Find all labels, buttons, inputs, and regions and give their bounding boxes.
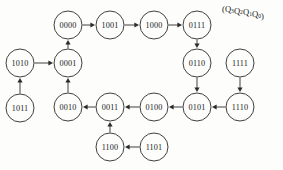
edge-0100-to-0011 xyxy=(125,104,140,109)
state-node-label: 0011 xyxy=(102,103,119,112)
state-variable-legend: (Q3Q2Q1Q0) xyxy=(222,4,264,21)
state-node-0001[interactable]: 0001 xyxy=(54,49,82,77)
state-node-label: 0101 xyxy=(189,103,206,112)
arrowhead-icon xyxy=(194,43,199,48)
state-node-label: 0010 xyxy=(60,103,77,112)
arrowhead-icon xyxy=(134,22,139,27)
state-node-1110[interactable]: 1110 xyxy=(226,93,254,121)
state-node-label: 1010 xyxy=(12,59,29,68)
edge-1111-to-1110 xyxy=(237,78,242,93)
edges-layer xyxy=(17,22,242,149)
state-node-0100[interactable]: 0100 xyxy=(140,93,168,121)
edge-0101-to-0100 xyxy=(169,104,183,109)
state-node-0101[interactable]: 0101 xyxy=(183,93,211,121)
state-node-0110[interactable]: 0110 xyxy=(183,49,211,77)
arrowhead-icon xyxy=(48,60,53,65)
state-node-label: 0111 xyxy=(189,21,205,30)
arrowhead-icon xyxy=(194,87,199,92)
state-node-label: 0110 xyxy=(189,59,206,68)
arrowhead-icon xyxy=(212,104,217,109)
arrowhead-icon xyxy=(125,104,130,109)
state-node-label: 1111 xyxy=(232,59,248,68)
edge-1110-to-0101 xyxy=(212,104,226,109)
state-node-1000[interactable]: 1000 xyxy=(140,11,168,39)
nodes-layer: 0000100110000111101000010110111110110010… xyxy=(6,11,254,161)
edge-1100-to-0011 xyxy=(107,122,112,133)
state-node-label: 0001 xyxy=(60,59,77,68)
state-node-0000[interactable]: 0000 xyxy=(54,11,82,39)
state-node-label: 0000 xyxy=(60,21,77,30)
state-node-0111[interactable]: 0111 xyxy=(183,11,211,39)
state-node-label: 1001 xyxy=(102,21,119,30)
state-node-0011[interactable]: 0011 xyxy=(96,93,124,121)
state-node-label: 1110 xyxy=(232,103,248,112)
arrowhead-icon xyxy=(65,40,70,45)
state-node-0010[interactable]: 0010 xyxy=(54,93,82,121)
state-node-1010[interactable]: 1010 xyxy=(6,49,34,77)
state-node-label: 1100 xyxy=(102,143,119,152)
arrowhead-icon xyxy=(83,104,88,109)
arrowhead-icon xyxy=(65,78,70,83)
state-node-1100[interactable]: 1100 xyxy=(96,133,124,161)
edge-0010-to-0001 xyxy=(65,78,70,93)
state-node-label: 1101 xyxy=(146,143,163,152)
state-node-1011[interactable]: 1011 xyxy=(6,94,34,122)
arrowhead-icon xyxy=(237,87,242,92)
state-node-label: 0100 xyxy=(146,103,163,112)
state-node-1111[interactable]: 1111 xyxy=(226,49,254,77)
edge-0111-to-0110 xyxy=(194,40,199,49)
arrowhead-icon xyxy=(169,104,174,109)
edge-0001-to-0000 xyxy=(65,40,70,49)
header-label-group: (Q3Q2Q1Q0) xyxy=(222,4,264,21)
state-transition-diagram: 0000100110000111101000010110111110110010… xyxy=(0,0,283,170)
state-node-label: 1000 xyxy=(146,21,163,30)
edge-1011-to-1010 xyxy=(17,78,22,94)
edge-0000-to-1001 xyxy=(83,22,96,27)
edge-1000-to-0111 xyxy=(169,22,183,27)
arrowhead-icon xyxy=(107,122,112,127)
arrowhead-icon xyxy=(177,22,182,27)
state-diagram-container: 0000100110000111101000010110111110110010… xyxy=(0,0,283,170)
state-node-label: 1011 xyxy=(12,104,29,113)
arrowhead-icon xyxy=(125,144,130,149)
state-node-1101[interactable]: 1101 xyxy=(140,133,168,161)
edge-0110-to-0101 xyxy=(194,78,199,93)
edge-1001-to-1000 xyxy=(125,22,140,27)
arrowhead-icon xyxy=(90,22,95,27)
edge-1010-to-0001 xyxy=(35,60,54,65)
arrowhead-icon xyxy=(17,78,22,83)
edge-1101-to-1100 xyxy=(125,144,140,149)
edge-0011-to-0010 xyxy=(83,104,96,109)
state-node-1001[interactable]: 1001 xyxy=(96,11,124,39)
